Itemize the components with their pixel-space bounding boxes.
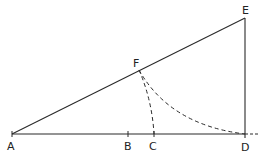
label-a: A	[7, 140, 15, 153]
label-b: B	[124, 140, 132, 153]
geometry-diagram: A B C D E F	[0, 0, 263, 160]
segment-ae	[12, 18, 245, 134]
label-e: E	[242, 4, 249, 17]
arc-fc	[139, 70, 154, 134]
arc-fd	[139, 70, 245, 134]
label-c: C	[149, 140, 157, 153]
label-f: F	[133, 57, 139, 70]
label-d: D	[241, 141, 249, 154]
